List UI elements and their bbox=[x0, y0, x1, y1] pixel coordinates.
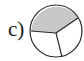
shaded-section bbox=[31, 7, 78, 33]
divider-bottom bbox=[56, 33, 62, 57]
divided-circle bbox=[0, 0, 84, 61]
